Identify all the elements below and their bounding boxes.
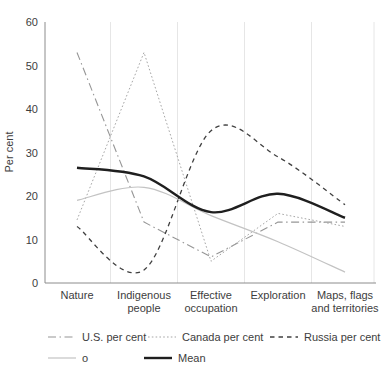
category-label: Effectiveoccupation bbox=[184, 289, 237, 314]
line-chart-plot-area: 0102030405060NatureIndigenouspeopleEffec… bbox=[0, 0, 391, 320]
category-label: Indigenouspeople bbox=[117, 289, 171, 314]
y-tick-label: 40 bbox=[26, 103, 38, 115]
o-line-swatch bbox=[48, 353, 76, 363]
series-line-u-s-per-cent bbox=[77, 52, 345, 256]
y-tick-label: 20 bbox=[26, 190, 38, 202]
series-line-mean bbox=[77, 168, 345, 218]
legend-label-russia: Russia per cent bbox=[304, 331, 380, 343]
legend-label-canada: Canada per cent bbox=[182, 331, 263, 343]
legend-item-mean: Mean bbox=[144, 351, 206, 365]
legend-item-canada: Canada per cent bbox=[148, 330, 263, 344]
category-label: Nature bbox=[60, 289, 93, 301]
y-tick-label: 30 bbox=[26, 147, 38, 159]
y-tick-label: 10 bbox=[26, 234, 38, 246]
y-axis-title: Per cent bbox=[3, 112, 19, 192]
y-tick-label: 60 bbox=[26, 16, 38, 28]
mean-line-swatch bbox=[144, 353, 172, 363]
category-label: Exploration bbox=[250, 289, 305, 301]
legend-label-us: U.S. per cent bbox=[82, 331, 146, 343]
y-tick-label: 0 bbox=[32, 277, 38, 289]
legend-item-us: U.S. per cent bbox=[48, 330, 146, 344]
series-line-russia-per-cent bbox=[77, 125, 345, 273]
series-line-canada-per-cent bbox=[77, 52, 345, 261]
legend-label-mean: Mean bbox=[178, 352, 206, 364]
category-label: Maps, flagsand territories bbox=[311, 289, 379, 314]
us-line-swatch bbox=[48, 332, 76, 342]
line-chart-figure: 0102030405060NatureIndigenouspeopleEffec… bbox=[0, 0, 391, 373]
y-tick-label: 50 bbox=[26, 60, 38, 72]
legend-item-russia: Russia per cent bbox=[270, 330, 380, 344]
russia-line-swatch bbox=[270, 332, 298, 342]
legend-item-o: o bbox=[48, 351, 88, 365]
canada-line-swatch bbox=[148, 332, 176, 342]
legend-label-o: o bbox=[82, 352, 88, 364]
